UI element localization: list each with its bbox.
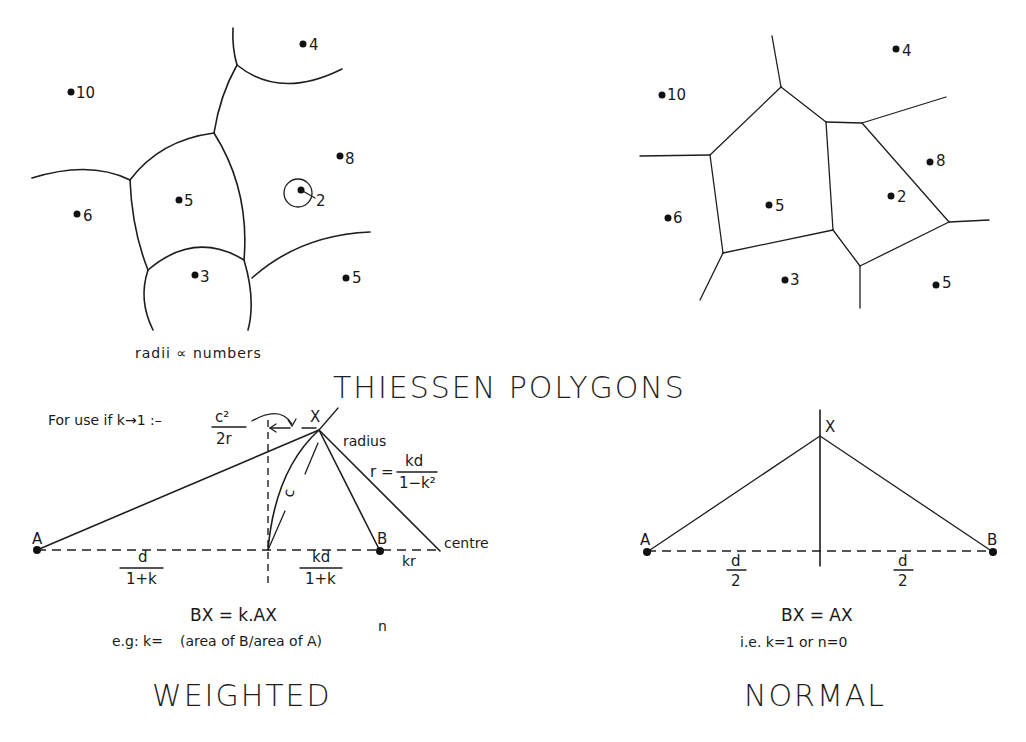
- point-b-label: B: [987, 531, 997, 549]
- site-label: 2: [897, 188, 907, 206]
- site-point: [343, 275, 350, 282]
- radius-eq: r =: [370, 463, 394, 481]
- radii-note: radii ∝ numbers: [135, 345, 262, 361]
- site-point: [68, 89, 75, 96]
- small-weight-circle: [284, 179, 312, 207]
- right-seg-den: 1+k: [305, 570, 336, 588]
- site-label: 6: [673, 209, 683, 227]
- site-label: 5: [775, 197, 785, 215]
- example-body: (area of B/area of A): [180, 633, 322, 649]
- line-bx: [820, 436, 993, 552]
- curved-arrow: [252, 414, 292, 424]
- site-label: 4: [902, 42, 912, 60]
- normal-polygon-map: 4 10 8 2 5 6 3 5: [640, 36, 989, 308]
- site-point: [74, 211, 81, 218]
- normal-heading: NORMAL: [744, 678, 886, 713]
- site-point: [337, 153, 344, 160]
- right-seg-num: kd: [312, 548, 330, 566]
- kr-label: kr: [402, 553, 416, 569]
- point-a-label: A: [32, 530, 43, 548]
- weighted-heading: WEIGHTED: [152, 678, 332, 713]
- point-b-label: B: [377, 530, 387, 548]
- arc-c-label: c: [279, 487, 298, 498]
- boundary-arc: [214, 65, 237, 133]
- main-title: THIESSEN POLYGONS: [333, 370, 686, 405]
- weighted-polygon-map: 4 10 8 2 5 6 3 5 radii ∝ numbers: [32, 28, 370, 361]
- right-seg-num: d: [898, 552, 908, 570]
- left-seg-den: 2: [731, 572, 741, 590]
- point-x-label: X: [825, 418, 835, 436]
- radius-frac-num: kd: [405, 452, 423, 470]
- normal-equation: BX = AX: [781, 605, 853, 625]
- boundary-arc: [130, 180, 148, 270]
- centre-label: centre: [444, 535, 489, 551]
- boundary-arc: [32, 169, 130, 180]
- boundary-arc: [244, 260, 251, 330]
- example-prefix: e.g: k=: [112, 633, 163, 649]
- radius-frac-den: 1−k²: [399, 474, 436, 492]
- boundary-arc: [214, 133, 245, 260]
- boundary-arc: [237, 65, 342, 84]
- normal-note: i.e. k=1 or n=0: [740, 634, 847, 650]
- site-label: 3: [790, 271, 800, 289]
- left-seg-den: 1+k: [126, 570, 157, 588]
- site-label: 4: [309, 36, 319, 54]
- thiessen-diagram: 4 10 8 2 5 6 3 5 radii ∝ numbers 4: [0, 0, 1026, 742]
- site-point: [300, 41, 307, 48]
- left-seg-num: d: [731, 552, 741, 570]
- radius-label: radius: [343, 433, 386, 449]
- site-label: 8: [936, 152, 946, 170]
- point-a-label: A: [640, 531, 651, 549]
- site-label: 5: [942, 274, 952, 292]
- site-label: 5: [184, 192, 194, 210]
- site-label: 2: [316, 192, 326, 210]
- site-label: 3: [200, 268, 210, 286]
- site-point: [298, 187, 305, 194]
- site-point: [192, 272, 199, 279]
- boundary-arc: [130, 133, 214, 180]
- weighted-equation: BX = k.AX: [190, 605, 277, 625]
- boundary-arc: [148, 247, 244, 270]
- line-ax: [647, 436, 820, 552]
- example-exponent: n: [378, 618, 387, 634]
- site-label: 5: [352, 269, 362, 287]
- right-seg-den: 2: [898, 572, 908, 590]
- weighted-construction: For use if k→1 :– c² 2r A B X c radius r…: [32, 408, 489, 713]
- line-ax: [37, 430, 319, 550]
- note-frac-num: c²: [215, 408, 229, 426]
- site-label: 8: [345, 150, 355, 168]
- left-seg-num: d: [138, 548, 148, 566]
- k-approaches-1-note: For use if k→1 :–: [48, 412, 162, 428]
- note-frac-den: 2r: [216, 430, 233, 448]
- site-label: 6: [83, 207, 93, 225]
- boundary-arc: [233, 28, 237, 65]
- site-point: [176, 197, 183, 204]
- point-x-label: X: [310, 408, 320, 426]
- site-label: 10: [76, 84, 95, 102]
- normal-construction: A B X d 2 d 2 BX = AX i.e. k=1 or n=0 NO…: [640, 410, 997, 713]
- boundary-arc: [144, 270, 153, 330]
- site-label: 10: [667, 86, 686, 104]
